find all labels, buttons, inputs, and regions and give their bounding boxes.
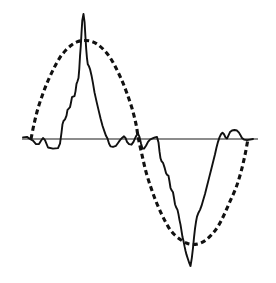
- figure-root: [0, 0, 276, 283]
- waveform-chart: [0, 0, 276, 283]
